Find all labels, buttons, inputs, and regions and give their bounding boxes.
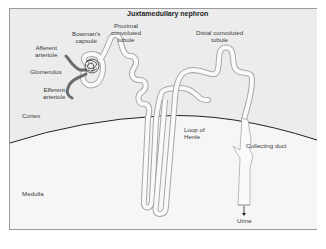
label-line: arteriole bbox=[35, 51, 57, 58]
nephron-illustration bbox=[0, 0, 326, 249]
label-line: tubule bbox=[111, 36, 141, 43]
label-line: Efferent bbox=[43, 86, 65, 93]
label-line: Distal convoluted bbox=[196, 29, 243, 36]
label-medulla: Medulla bbox=[22, 190, 44, 197]
label-loop-of-henle: Loop of Henle bbox=[184, 126, 205, 140]
diagram-title: Juxtamedullary nephron bbox=[127, 10, 208, 17]
label-bowmans-capsule: Bowman's capsule bbox=[72, 30, 100, 44]
label-efferent-arteriole: Efferent arteriole bbox=[43, 86, 65, 100]
label-afferent-arteriole: Afferent arteriole bbox=[35, 44, 57, 58]
label-line: arteriole bbox=[43, 93, 65, 100]
label-line: Bowman's bbox=[72, 30, 100, 37]
label-distal-convoluted-tubule: Distal convoluted tubule bbox=[196, 29, 243, 43]
label-line: tubule bbox=[196, 36, 243, 43]
label-proximal-convoluted-tubule: Proximal convoluted tubule bbox=[111, 22, 141, 43]
label-line: Loop of bbox=[184, 126, 205, 133]
label-line: convoluted bbox=[111, 29, 141, 36]
label-line: capsule bbox=[72, 37, 100, 44]
label-collecting-duct: Collecting duct bbox=[246, 142, 287, 149]
label-urine: Urine bbox=[237, 217, 252, 224]
label-line: Proximal bbox=[111, 22, 141, 29]
label-line: Henle bbox=[184, 133, 205, 140]
label-glomerulus: Glomerulus bbox=[30, 68, 62, 75]
label-line: Afferent bbox=[35, 44, 57, 51]
label-cortex: Cortex bbox=[22, 112, 40, 119]
